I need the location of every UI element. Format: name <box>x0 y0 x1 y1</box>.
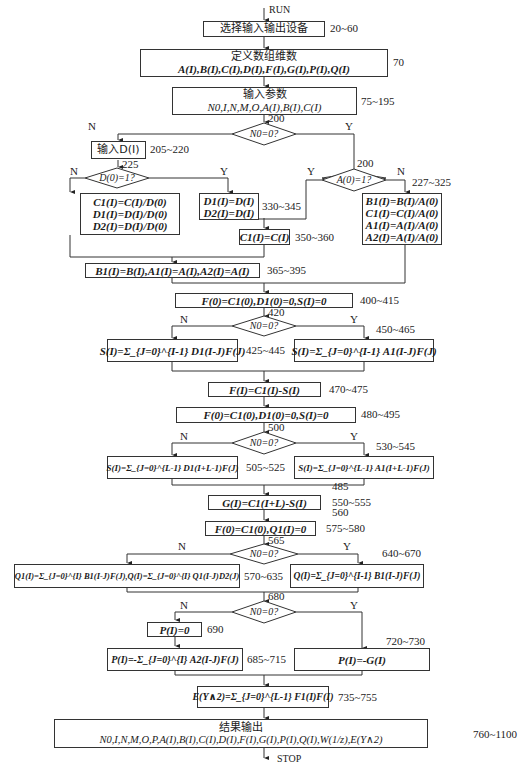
select-io-box: 选择输入输出设备 <box>203 21 325 37</box>
output-text: N0,I,N,M,O,P,A(I),B(I),C(I),D(I),F(I),G(… <box>99 734 382 746</box>
branch-no: N <box>88 120 96 132</box>
init-1-text: F(0)=C1(0),D1(0)=0,S(I)=0 <box>201 295 326 307</box>
decision-n0-zero: N0=0? <box>244 437 284 448</box>
line-label: 365~395 <box>267 264 306 276</box>
formula-line: D1(I)=D(I) <box>204 195 255 207</box>
normalize-a-box: B1(I)=B(I)/A(0) C1(I)=C(I)/A(0) A1(I)=A(… <box>362 193 442 245</box>
line-label: 760~1100 <box>473 728 517 740</box>
formula-line: A2(I)=A(I)/A(0) <box>366 231 439 243</box>
decision-n0-zero: N0=0? <box>244 606 284 617</box>
line-label: 720~730 <box>386 635 425 647</box>
g-calc-text: G(I)=C1(I+L)-S(I) <box>222 497 307 509</box>
define-arrays-title: 定义数组维数 <box>231 51 297 63</box>
select-io-text: 选择输入输出设备 <box>220 23 308 35</box>
p-neg-g-box: P(I)=-G(I) <box>294 648 430 671</box>
branch-no: N <box>180 313 188 325</box>
s-d1-l-box: S(I)=Σ_{J=0}^{L-1} D1(I+L-1)F(J) <box>107 456 238 479</box>
normalize-d-box: C1(I)=C(I)/D(0) D1(I)=D(I)/D(0) D2(I)=D(… <box>80 193 180 235</box>
input-params-box: 输入参数 N0,I,N,M,O,A(I),B(I),C(I) <box>172 87 357 115</box>
formula-line: C1(I)=C(I)/A(0) <box>366 207 439 219</box>
line-label: 400~415 <box>360 294 399 306</box>
formula-line: D2(I)=D(I)/D(0) <box>93 220 168 232</box>
q-y-text: Q(I)=Σ_{J=0}^{I-1} B1(I-J)F(J) <box>294 570 421 582</box>
line-label: 205~220 <box>150 143 189 155</box>
p-zero-text: P(I)=0 <box>159 624 189 636</box>
line-label: 350~360 <box>295 231 334 243</box>
q-y-box: Q(I)=Σ_{J=0}^{I-1} B1(I-J)F(J) <box>290 564 424 588</box>
p-zero-box: P(I)=0 <box>147 622 202 637</box>
output-title: 结果输出 <box>219 722 263 734</box>
line-label: 485 <box>332 480 349 492</box>
copy-c-text: C1(I)=C(I) <box>240 231 290 243</box>
branch-yes: Y <box>220 165 228 177</box>
line-label: 420 <box>268 306 285 318</box>
line-label: 225 <box>122 158 139 170</box>
formula-line: A1(I)=A(I)/A(0) <box>366 219 439 231</box>
line-label: 500 <box>268 421 285 433</box>
init-1-box: F(0)=C1(0),D1(0)=0,S(I)=0 <box>175 293 353 308</box>
s-a1-box: S(I)=Σ_{J=0}^{I-1} A1(I-J)F(J) <box>294 339 434 362</box>
input-d-box: 输入D(I) <box>91 141 146 159</box>
s-a1-l-box: S(I)=Σ_{J=0}^{L-1} A1(I+L-1)F(J) <box>294 456 434 479</box>
line-label: 560 <box>332 506 349 518</box>
init-2-text: F(0)=C1(0),D1(0)=0,S(I)=0 <box>203 409 328 421</box>
p-sum-box: P(I)=-Σ_{J=0}^{I} A2(I-J)F(J) <box>107 648 243 671</box>
e-calc-box: E(Y∧2)=Σ_{J=0}^{L-1} F1(I)F(I) <box>197 686 329 708</box>
line-label: 425~445 <box>246 344 285 356</box>
define-arrays-box: 定义数组维数 A(I),B(I),C(I),D(I),F(I),G(I),P(I… <box>140 49 388 77</box>
line-label: 450~465 <box>376 323 415 335</box>
decision-a0-one: A(0)=1? <box>334 174 374 185</box>
p-sum-text: P(I)=-Σ_{J=0}^{I} A2(I-J)F(J) <box>111 654 238 666</box>
formula-line: D1(I)=D(I)/D(0) <box>93 208 168 220</box>
define-arrays-text: A(I),B(I),C(I),D(I),F(I),G(I),P(I),Q(I) <box>178 63 350 75</box>
branch-yes: Y <box>343 540 351 552</box>
run-label: RUN <box>269 4 290 15</box>
branch-no: N <box>178 540 186 552</box>
line-label: 505~525 <box>246 461 285 473</box>
init-2-box: F(0)=C1(0),D1(0)=0,S(I)=0 <box>176 407 356 423</box>
branch-yes: Y <box>345 120 353 132</box>
copy-b-a-text: B1(I)=B(I),A1(I)=A(I),A2(I)=A(I) <box>95 265 249 277</box>
s-a1-l-text: S(I)=Σ_{J=0}^{L-1} A1(I+L-1)F(J) <box>298 462 429 474</box>
branch-yes: Y <box>350 599 358 611</box>
branch-no: N <box>397 165 405 177</box>
decision-n0-zero: N0=0? <box>244 320 284 331</box>
branch-no: N <box>70 165 78 177</box>
branch-yes: Y <box>350 430 358 442</box>
line-label: 735~755 <box>338 691 377 703</box>
input-d-text: 输入D(I) <box>97 144 139 156</box>
stop-label: STOP <box>277 753 301 764</box>
line-label: 575~580 <box>326 522 365 534</box>
s-a1-text: S(I)=Σ_{J=0}^{I-1} A1(I-J)F(J) <box>291 345 436 357</box>
line-label: 565 <box>268 534 285 546</box>
init-3-text: F(0)=C1(0),Q1(I)=0 <box>215 523 307 535</box>
input-params-text: N0,I,N,M,O,A(I),B(I),C(I) <box>208 101 322 113</box>
line-label: 200 <box>268 112 285 124</box>
line-label: 75~195 <box>361 95 394 107</box>
line-label: 640~670 <box>382 547 421 559</box>
formula-line: D2(I)=D(I) <box>204 207 255 219</box>
line-label: 570~635 <box>244 570 283 582</box>
copy-d-box: D1(I)=D(I) D2(I)=D(I) <box>199 193 259 220</box>
line-label: 690 <box>207 623 224 635</box>
line-label: 227~325 <box>412 176 451 188</box>
line-label: 330~345 <box>262 200 301 212</box>
decision-n0-zero: N0=0? <box>244 128 284 139</box>
q-n-box: Q1(I)=Σ_{J=0}^{I} B1(I-J)F(J),Q(I)=Σ_{J=… <box>14 564 240 588</box>
line-label: 200 <box>357 157 374 169</box>
line-label: 20~60 <box>330 22 358 34</box>
p-neg-g-text: P(I)=-G(I) <box>338 654 386 666</box>
line-label: 470~475 <box>329 383 368 395</box>
formula-line: C1(I)=C(I)/D(0) <box>93 196 166 208</box>
g-calc-box: G(I)=C1(I+L)-S(I) <box>208 495 321 510</box>
f-calc-text: F(I)=C1(I)-S(I) <box>229 384 300 396</box>
decision-d0-one: D(0)=1? <box>97 172 137 183</box>
formula-line: B1(I)=B(I)/A(0) <box>366 195 439 207</box>
s-d1-l-text: S(I)=Σ_{J=0}^{L-1} D1(I+L-1)F(J) <box>107 462 239 474</box>
branch-yes: Y <box>350 313 358 325</box>
line-label: 680 <box>268 590 285 602</box>
line-label: 685~715 <box>247 653 286 665</box>
copy-c-box: C1(I)=C(I) <box>239 229 290 245</box>
branch-no: N <box>180 430 188 442</box>
line-label: 70 <box>393 56 404 68</box>
